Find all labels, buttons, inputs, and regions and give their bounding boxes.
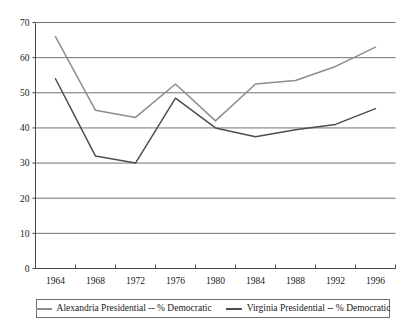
x-axis-tick-label: 1964 — [46, 276, 65, 286]
x-axis-tick-label: 1972 — [126, 276, 145, 286]
data-series-lines — [56, 37, 376, 164]
y-axis-tick-label: 70 — [20, 18, 30, 28]
legend-label-virginia: Virginia Presidential -- % Democratic — [247, 303, 391, 314]
x-axis-tick-label: 1984 — [246, 276, 265, 286]
legend-line-swatch-alexandria — [36, 308, 52, 310]
legend-label-alexandria: Alexandria Presidential -- % Democratic — [57, 303, 212, 314]
y-axis-tick-label: 60 — [20, 53, 30, 63]
x-axis-tick-labels: 196419681972197619801984198819921996 — [46, 276, 385, 286]
chart-plot-area: 010203040506070 196419681972197619801984… — [0, 0, 420, 327]
line-chart-figure: 010203040506070 196419681972197619801984… — [0, 0, 420, 327]
y-axis-tick-label: 30 — [20, 158, 30, 168]
x-axis-tick-label: 1988 — [286, 276, 305, 286]
x-axis-tick-label: 1968 — [86, 276, 105, 286]
series-line-alexandria — [56, 37, 376, 121]
legend-entry-virginia: Virginia Presidential -- % Democratic — [226, 303, 391, 314]
y-axis-tick-label: 50 — [20, 88, 30, 98]
x-axis-tick-label: 1976 — [166, 276, 185, 286]
y-axis-tick-label: 10 — [20, 229, 30, 239]
legend-line-swatch-virginia — [226, 308, 242, 310]
x-axis-tick-label: 1992 — [326, 276, 345, 286]
y-axis-tick-label: 40 — [20, 123, 30, 133]
x-axis-ticks — [36, 265, 396, 269]
legend-entry-alexandria: Alexandria Presidential -- % Democratic — [36, 303, 212, 314]
x-axis-tick-label: 1980 — [206, 276, 225, 286]
chart-legend: Alexandria Presidential -- % Democratic … — [36, 299, 390, 318]
y-axis-tick-label: 0 — [25, 264, 30, 274]
y-axis-tick-label: 20 — [20, 194, 30, 204]
x-axis-tick-label: 1996 — [366, 276, 385, 286]
y-axis-tick-labels: 010203040506070 — [20, 18, 36, 274]
chart-container: 010203040506070 196419681972197619801984… — [0, 0, 420, 327]
